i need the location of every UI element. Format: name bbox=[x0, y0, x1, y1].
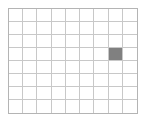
grid-cell[interactable] bbox=[123, 87, 137, 100]
grid-cell[interactable] bbox=[37, 87, 51, 100]
grid-cell[interactable] bbox=[94, 74, 108, 87]
grid-cell[interactable] bbox=[37, 22, 51, 35]
grid-cell[interactable] bbox=[9, 87, 23, 100]
grid-cell[interactable] bbox=[80, 87, 94, 100]
grid-cell[interactable] bbox=[9, 100, 23, 113]
grid-cell[interactable] bbox=[66, 22, 80, 35]
grid-cell[interactable] bbox=[66, 48, 80, 61]
grid-cell[interactable] bbox=[80, 48, 94, 61]
grid-cell[interactable] bbox=[80, 9, 94, 22]
grid-cell[interactable] bbox=[94, 22, 108, 35]
grid-cell[interactable] bbox=[109, 74, 123, 87]
grid-cell[interactable] bbox=[109, 9, 123, 22]
grid-cell[interactable] bbox=[52, 48, 66, 61]
grid-cell[interactable] bbox=[80, 22, 94, 35]
grid-cell[interactable] bbox=[109, 61, 123, 74]
grid-cell[interactable] bbox=[9, 35, 23, 48]
grid-cell[interactable] bbox=[23, 22, 37, 35]
grid-cell[interactable] bbox=[52, 87, 66, 100]
grid-cell[interactable] bbox=[37, 9, 51, 22]
grid-cell[interactable] bbox=[109, 35, 123, 48]
grid-cell[interactable] bbox=[94, 48, 108, 61]
grid-cell[interactable] bbox=[109, 22, 123, 35]
grid-cell[interactable] bbox=[123, 74, 137, 87]
grid-cell[interactable] bbox=[52, 35, 66, 48]
grid-cell[interactable] bbox=[9, 48, 23, 61]
grid-cell[interactable] bbox=[80, 35, 94, 48]
grid-cell[interactable] bbox=[9, 9, 23, 22]
grid-cell[interactable] bbox=[9, 22, 23, 35]
grid-cell[interactable] bbox=[37, 35, 51, 48]
grid-cell[interactable] bbox=[37, 100, 51, 113]
grid-cell[interactable] bbox=[23, 87, 37, 100]
pixel-grid-panel[interactable] bbox=[8, 8, 138, 114]
grid-cell[interactable] bbox=[94, 61, 108, 74]
grid-cell[interactable] bbox=[94, 87, 108, 100]
grid-cell[interactable] bbox=[52, 22, 66, 35]
grid-cell[interactable] bbox=[52, 74, 66, 87]
grid-cell[interactable] bbox=[52, 9, 66, 22]
grid-cell[interactable] bbox=[94, 35, 108, 48]
grid-cell[interactable] bbox=[109, 100, 123, 113]
grid-cell[interactable] bbox=[80, 74, 94, 87]
grid-cell[interactable] bbox=[23, 35, 37, 48]
grid-cell[interactable] bbox=[94, 9, 108, 22]
grid-cell[interactable] bbox=[66, 100, 80, 113]
grid-cell[interactable] bbox=[123, 61, 137, 74]
grid-cell[interactable] bbox=[66, 9, 80, 22]
grid-cell[interactable] bbox=[23, 61, 37, 74]
grid-cell[interactable] bbox=[109, 87, 123, 100]
grid-cell[interactable] bbox=[123, 48, 137, 61]
grid-cell[interactable] bbox=[80, 100, 94, 113]
grid-cell[interactable] bbox=[66, 35, 80, 48]
grid-cell[interactable] bbox=[123, 100, 137, 113]
grid-cell[interactable] bbox=[23, 9, 37, 22]
grid-cell[interactable] bbox=[52, 100, 66, 113]
grid-cell[interactable] bbox=[9, 74, 23, 87]
grid-cell[interactable] bbox=[37, 48, 51, 61]
grid-cell[interactable] bbox=[66, 61, 80, 74]
grid-cell[interactable] bbox=[9, 61, 23, 74]
grid-cell-filled[interactable] bbox=[109, 48, 123, 61]
grid-cell[interactable] bbox=[66, 74, 80, 87]
pixel-grid-surface[interactable] bbox=[9, 9, 137, 113]
grid-cell[interactable] bbox=[123, 35, 137, 48]
grid-cell[interactable] bbox=[66, 87, 80, 100]
grid-cell[interactable] bbox=[80, 61, 94, 74]
grid-cell[interactable] bbox=[123, 22, 137, 35]
grid-cell[interactable] bbox=[52, 61, 66, 74]
grid-cell[interactable] bbox=[23, 100, 37, 113]
grid-cell[interactable] bbox=[37, 74, 51, 87]
grid-cell[interactable] bbox=[94, 100, 108, 113]
grid-cell[interactable] bbox=[23, 48, 37, 61]
grid-cell[interactable] bbox=[23, 74, 37, 87]
grid-cell[interactable] bbox=[37, 61, 51, 74]
grid-cell[interactable] bbox=[123, 9, 137, 22]
